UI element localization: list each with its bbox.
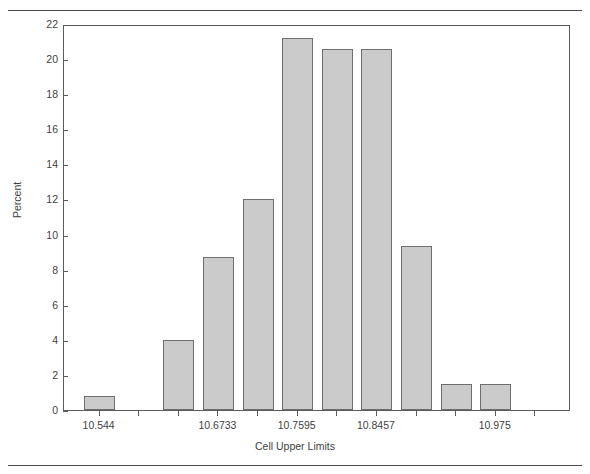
x-tick-mark — [99, 411, 100, 416]
y-tick-label: 18 — [46, 88, 58, 100]
x-axis-title: Cell Upper Limits — [0, 440, 590, 452]
y-tick-label: 10 — [46, 229, 58, 241]
y-tick-mark — [63, 271, 68, 272]
x-tick-mark — [217, 411, 218, 416]
y-tick-label: 4 — [52, 334, 58, 346]
y-tick-label: 16 — [46, 123, 58, 135]
y-tick-label: 22 — [46, 18, 58, 30]
x-tick-mark — [495, 411, 496, 416]
y-tick-label: 0 — [52, 404, 58, 416]
y-tick-label: 20 — [46, 53, 58, 65]
y-axis-title: Percent — [11, 182, 23, 218]
y-tick-mark — [63, 60, 68, 61]
clipped-header-text — [120, 0, 420, 1]
y-tick-mark — [63, 130, 68, 131]
y-tick-mark — [63, 95, 68, 96]
bar — [361, 49, 392, 410]
x-tick-mark — [336, 411, 337, 416]
histogram-figure: 0246810121416182022 10.54410.673310.7595… — [0, 0, 590, 474]
bar — [401, 246, 432, 410]
y-tick-mark — [63, 165, 68, 166]
y-tick-label: 8 — [52, 264, 58, 276]
bar — [84, 396, 115, 410]
x-tick-label: 10.975 — [479, 419, 511, 431]
y-tick-mark — [63, 376, 68, 377]
y-tick-mark — [63, 236, 68, 237]
bar — [480, 384, 511, 410]
bar — [441, 384, 472, 410]
x-tick-label: 10.544 — [83, 419, 115, 431]
bar-series — [64, 26, 569, 410]
x-tick-label: 10.8457 — [357, 419, 395, 431]
y-tick-label: 6 — [52, 299, 58, 311]
x-tick-mark — [376, 411, 377, 416]
x-tick-mark — [455, 411, 456, 416]
y-tick-mark — [63, 200, 68, 201]
y-tick-mark — [63, 341, 68, 342]
x-tick-mark — [257, 411, 258, 416]
x-tick-mark — [534, 411, 535, 416]
x-tick-label: 10.6733 — [198, 419, 236, 431]
x-tick-mark — [297, 411, 298, 416]
x-tick-mark — [416, 411, 417, 416]
x-tick-mark — [178, 411, 179, 416]
x-tick-label: 10.7595 — [278, 419, 316, 431]
y-tick-mark — [63, 306, 68, 307]
plot-area — [63, 25, 570, 411]
y-tick-label: 12 — [46, 193, 58, 205]
bar — [203, 257, 234, 410]
x-tick-mark — [138, 411, 139, 416]
bar — [243, 199, 274, 410]
y-tick-mark — [63, 411, 68, 412]
bar — [322, 49, 353, 410]
top-horizontal-rule — [8, 10, 582, 11]
y-tick-label: 14 — [46, 158, 58, 170]
y-tick-mark — [63, 25, 68, 26]
y-tick-label: 2 — [52, 369, 58, 381]
bottom-horizontal-rule — [8, 465, 582, 466]
bar — [163, 340, 194, 410]
bar — [282, 38, 313, 410]
